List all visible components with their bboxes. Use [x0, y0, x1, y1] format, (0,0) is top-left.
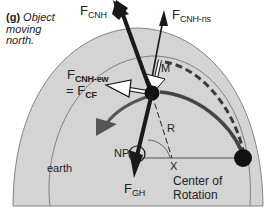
label-fcnh-ns-sub: CNH-ns: [180, 14, 211, 24]
label-fcnh-ns-main: F: [172, 7, 180, 22]
end-dot: [234, 149, 252, 167]
label-fcnh-ew-main: F: [67, 67, 75, 82]
label-earth: earth: [47, 163, 72, 174]
label-center-line2: Rotation: [173, 188, 218, 202]
fcnh-ns-arrowhead-icon: [159, 10, 168, 26]
label-fgh-main: F: [124, 181, 132, 196]
label-fcf: = FCF: [66, 84, 97, 97]
label-fgh: FGH: [124, 182, 145, 195]
label-fcnh-main: F: [80, 3, 88, 18]
label-r: R: [167, 123, 175, 134]
label-fcf-main: = F: [66, 83, 85, 98]
label-center-line1: Center of: [173, 174, 222, 188]
label-fcf-sub: CF: [85, 90, 97, 100]
label-fcnh: FCNH: [80, 4, 107, 17]
label-fcnh-ns: FCNH-ns: [172, 8, 211, 21]
label-fcnh-ew: FCNH-ew: [67, 68, 108, 81]
figure-caption: (g) Object moving north.: [6, 12, 55, 47]
caption-line1: Object: [23, 11, 55, 23]
label-x: X: [170, 161, 177, 172]
label-np: NP: [114, 148, 129, 159]
label-fcnh-sub: CNH: [88, 10, 107, 20]
caption-tag: (g): [6, 11, 20, 23]
label-m: M: [161, 63, 170, 74]
label-fgh-sub: GH: [132, 188, 145, 198]
label-center-of-rotation: Center of Rotation: [173, 174, 222, 202]
caption-line3: north.: [6, 34, 34, 46]
caption-line2: moving: [6, 23, 41, 35]
